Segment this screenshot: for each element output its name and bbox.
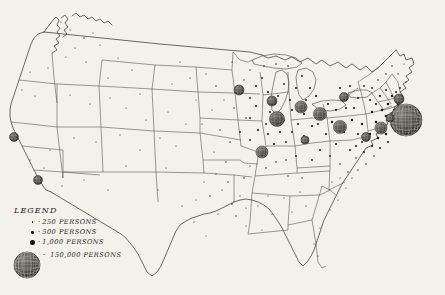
sphere-pittsburgh — [334, 121, 347, 134]
sphere-buffalo — [340, 93, 349, 102]
legend-row-150000: · 150,000 PERSONS — [14, 251, 122, 259]
legend-row-250: · 250 PERSONS — [28, 218, 122, 227]
legend: LEGEND · 250 PERSONS · 500 PERSONS · 1,0… — [14, 206, 122, 259]
sphere-cleveland — [314, 108, 327, 121]
sphere-st-louis — [256, 146, 268, 158]
map-figure: AUSTRIANS — [0, 0, 445, 295]
sphere-los-angeles — [34, 176, 43, 185]
legend-row-1000: · 1,000 PERSONS — [28, 238, 122, 247]
legend-dash: · — [38, 218, 40, 226]
legend-label-500: 500 PERSONS — [42, 228, 97, 236]
sphere-philadelphia — [375, 122, 387, 134]
legend-dash: · — [38, 228, 40, 236]
sphere-newark — [386, 114, 394, 122]
sphere-boston — [394, 94, 404, 104]
small-dot-icon — [28, 221, 37, 223]
legend-dash: · — [38, 238, 40, 246]
legend-label-1000: 1,000 PERSONS — [42, 238, 104, 246]
medium-dot-icon — [28, 231, 37, 234]
sphere-chicago — [270, 112, 285, 127]
sphere-minneapolis-st-paul — [234, 85, 244, 95]
legend-label-250: 250 PERSONS — [42, 218, 97, 226]
sphere-cincinnati — [301, 136, 309, 144]
large-dot-icon — [28, 240, 37, 245]
legend-row-500: · 500 PERSONS — [28, 228, 122, 237]
sphere-milwaukee — [267, 96, 277, 106]
legend-title: LEGEND — [14, 206, 122, 215]
legend-dash: · — [43, 251, 45, 259]
legend-label-150000: 150,000 PERSONS — [50, 251, 121, 259]
sphere-new-york — [390, 104, 422, 136]
sphere-detroit — [295, 101, 307, 113]
sphere-san-francisco — [10, 133, 19, 142]
sphere-baltimore — [362, 133, 371, 142]
